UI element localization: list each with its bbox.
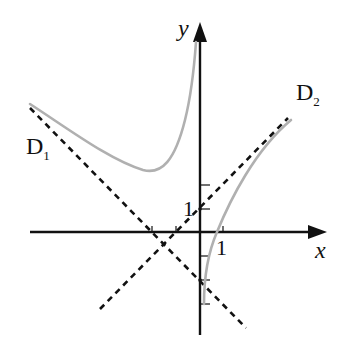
point-y1 — [198, 207, 202, 211]
d1-letter: D — [26, 133, 43, 159]
d1-label: D1 — [26, 134, 50, 162]
d2-label: D2 — [296, 80, 320, 108]
d2-subscript: 2 — [313, 94, 320, 109]
curve-left-branch — [30, 42, 196, 171]
y-axis-label: y — [178, 16, 189, 40]
x-axis-label: x — [315, 238, 326, 262]
asymptote-d1 — [30, 108, 246, 328]
d2-letter: D — [296, 79, 313, 105]
point-y-2 — [198, 278, 202, 282]
x-tick-label-1: 1 — [216, 237, 227, 259]
d1-subscript: 1 — [43, 148, 50, 163]
y-tick-label-1: 1 — [183, 198, 194, 220]
graph-figure: y x 1 1 D1 D2 — [0, 0, 348, 346]
y-axis-arrow-icon — [193, 22, 207, 42]
asymptote-d2 — [100, 118, 288, 309]
graph-canvas — [0, 0, 348, 346]
curve-right-branch — [204, 120, 291, 304]
